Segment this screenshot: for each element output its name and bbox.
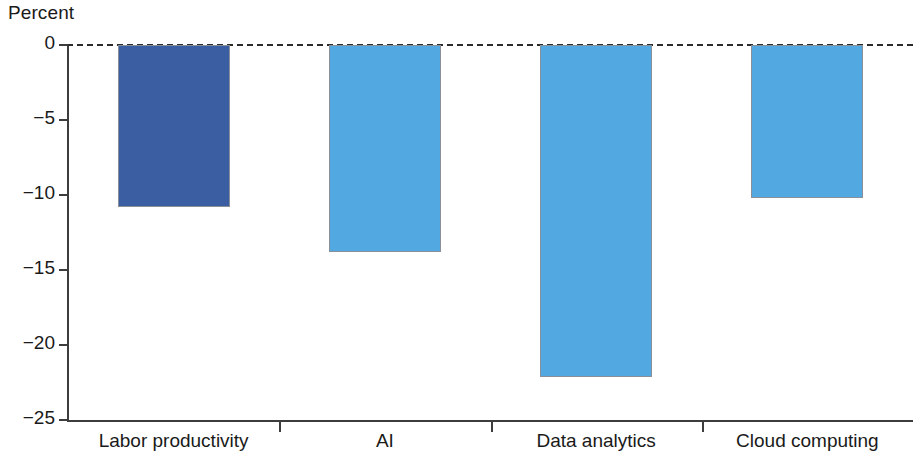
y-axis-tick-label-text: −10 — [23, 182, 55, 204]
x-axis-label-data-analytics: Data analytics — [536, 430, 655, 452]
x-axis-tick — [279, 421, 281, 432]
y-axis-tick — [59, 419, 68, 421]
y-axis-tick-label-text: −5 — [33, 107, 55, 129]
x-axis-tick — [491, 421, 493, 432]
bar-chart: Percent 0−5−10−15−20−25 Labor productivi… — [0, 0, 917, 458]
x-axis-label-labor-productivity: Labor productivity — [99, 430, 249, 452]
y-axis-tick — [59, 119, 68, 121]
x-axis-tick — [702, 421, 704, 432]
y-axis-tick-label-text: 0 — [44, 32, 55, 54]
x-axis-label-cloud-computing: Cloud computing — [736, 430, 879, 452]
y-axis-tick-label-text: −15 — [23, 257, 55, 279]
y-axis-tick — [59, 269, 68, 271]
y-axis-line — [67, 45, 69, 421]
x-axis-label-ai: AI — [376, 430, 394, 452]
y-axis-tick — [59, 344, 68, 346]
bar-cloud-computing — [751, 45, 863, 198]
y-axis-title: Percent — [8, 2, 74, 24]
y-axis-tick — [59, 194, 68, 196]
y-axis-tick-label-text: −20 — [23, 332, 55, 354]
y-axis-tick — [59, 44, 68, 46]
y-axis-tick-label-text: −25 — [23, 407, 55, 429]
bar-labor-productivity — [118, 45, 230, 207]
bar-data-analytics — [540, 45, 652, 377]
bar-ai — [329, 45, 441, 252]
